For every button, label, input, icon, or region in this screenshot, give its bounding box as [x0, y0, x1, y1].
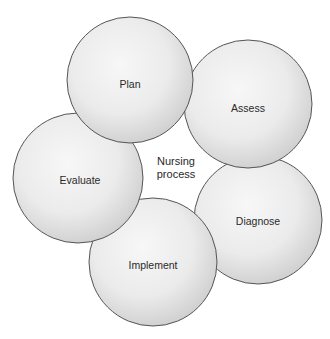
- step-label-plan: Plan: [119, 78, 140, 90]
- center-label-line1: Nursing: [157, 155, 196, 168]
- step-label-evaluate: Evaluate: [60, 174, 101, 186]
- center-label-line2: process: [157, 168, 196, 181]
- step-label-diagnose: Diagnose: [236, 215, 280, 227]
- step-label-assess: Assess: [231, 102, 265, 114]
- center-label: Nursing process: [157, 155, 196, 181]
- step-label-implement: Implement: [128, 259, 177, 271]
